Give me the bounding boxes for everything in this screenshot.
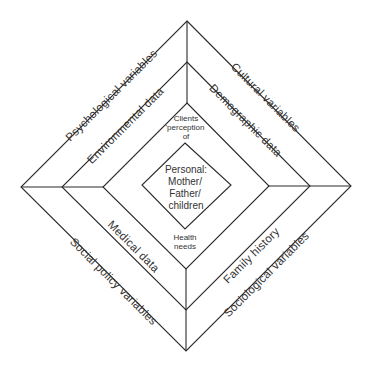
nested-diamond-diagram: Psychological variables Cultural variabl… [0,0,370,366]
label-health-needs-line: needs [174,242,196,251]
label-demographic-data: Demographic data [207,82,284,159]
label-cultural-variables: Cultural variables [229,60,303,134]
label-psychological-variables: Psychological variables [63,47,159,143]
label-center-line: Father/ [169,188,201,199]
label-center-line: Mother/ [168,176,202,187]
label-center-line: children [168,200,203,211]
label-health-needs-line: Health [173,233,196,242]
label-center-personal: Personal: Mother/ Father/ children [165,164,207,211]
label-clients-perception-line: of [183,132,190,141]
label-health-needs: Health needs [173,233,196,251]
label-clients-perception-line: Clients [174,114,198,123]
label-clients-perception-line: 'perception [166,123,205,132]
label-environmental-data: Environmental data [85,84,166,165]
label-medical-data: Medical data [106,218,163,275]
label-center-line: Personal: [165,164,207,175]
